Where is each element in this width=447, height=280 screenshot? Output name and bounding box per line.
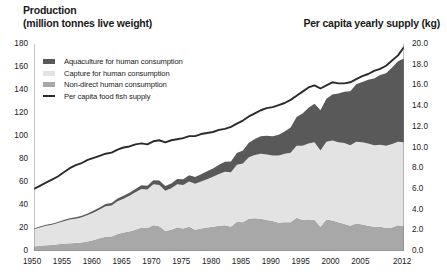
y-axis-right-tick-label: 18.0 (412, 60, 428, 69)
legend-line-marker (43, 95, 55, 97)
x-axis-tick-label: 2005 (351, 257, 369, 266)
x-axis-tick-label: 1995 (292, 257, 310, 266)
x-axis-tick-label: 1980 (202, 257, 220, 266)
y-axis-left-tick-label: 180 (2, 39, 28, 48)
y-axis-right-tick-label: 8.0 (412, 163, 423, 172)
legend-label: Per capita food fish supply (64, 92, 150, 101)
y-axis-right-tick-label: 16.0 (412, 80, 428, 89)
y-axis-right-tick-label: 10.0 (412, 143, 428, 152)
legend-label: Aquaculture for human consumption (64, 57, 183, 66)
x-axis-tick-label: 2000 (321, 257, 339, 266)
legend-color-swatch (43, 82, 55, 87)
x-axis-tick-label: 2012 (393, 257, 411, 266)
legend-item: Non-direct human consumption (43, 79, 183, 91)
legend-item: Per capita food fish supply (43, 91, 183, 103)
x-axis-tick-label: 1985 (232, 257, 250, 266)
y-axis-right-tick-label: 6.0 (412, 184, 423, 193)
y-axis-left-tick-label: 100 (2, 131, 28, 140)
legend-label: Non-direct human consumption (64, 80, 167, 89)
left-axis-title-line1: Production (23, 4, 76, 16)
x-axis-tick-label: 1965 (113, 257, 131, 266)
y-axis-right-tick-label: 2.0 (412, 225, 423, 234)
y-axis-right-tick-label: 0.0 (412, 246, 423, 255)
y-axis-left-tick-label: 60 (2, 177, 28, 186)
chart-figure: Production (million tonnes live weight) … (0, 0, 447, 280)
legend-item: Capture for human consumption (43, 68, 183, 80)
y-axis-left-tick-label: 40 (2, 200, 28, 209)
legend-item: Aquaculture for human consumption (43, 56, 183, 68)
y-axis-right-tick-label: 20.0 (412, 39, 428, 48)
y-axis-left-tick-label: 160 (2, 62, 28, 71)
y-axis-left-tick-label: 140 (2, 85, 28, 94)
y-axis-right-tick-label: 12.0 (412, 122, 428, 131)
legend-color-swatch (43, 59, 55, 64)
x-axis-tick-label: 1950 (23, 257, 41, 266)
legend-label: Capture for human consumption (64, 69, 170, 78)
legend-color-swatch (43, 71, 55, 76)
y-axis-left-tick-label: 0 (2, 246, 28, 255)
y-axis-left-tick-label: 80 (2, 154, 28, 163)
y-axis-right-tick-label: 14.0 (412, 101, 428, 110)
y-axis-right-tick-label: 4.0 (412, 205, 423, 214)
chart-legend: Aquaculture for human consumptionCapture… (43, 56, 183, 102)
y-axis-left-tick-label: 120 (2, 108, 28, 117)
x-axis-tick-label: 1990 (262, 257, 280, 266)
right-axis-title: Per capita yearly supply (kg) (303, 17, 440, 29)
x-axis-tick-label: 1970 (142, 257, 160, 266)
x-axis-tick-label: 1960 (83, 257, 101, 266)
x-axis-tick-label: 1955 (53, 257, 71, 266)
x-axis-tick-label: 1975 (172, 257, 190, 266)
left-axis-title-line2: (million tonnes live weight) (23, 17, 152, 29)
y-axis-left-tick-label: 20 (2, 223, 28, 232)
